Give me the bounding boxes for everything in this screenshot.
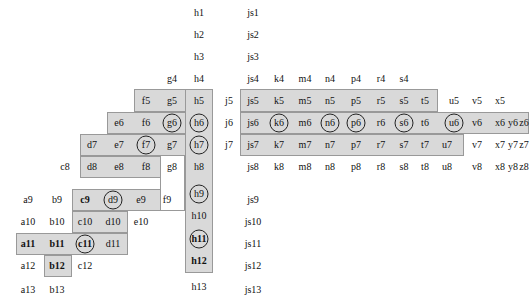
cell-label-n5: n5: [325, 96, 335, 106]
cell-label-u6: u6: [449, 118, 459, 128]
cell-label-a13: a13: [21, 285, 35, 295]
cell-label-e7: e7: [114, 140, 123, 150]
cell-label-h10: h10: [192, 211, 207, 221]
cell-label-js12: js12: [245, 261, 262, 271]
cell-label-r6: r6: [377, 118, 385, 128]
cell-label-z6: z6: [519, 118, 528, 128]
cell-label-p7: p7: [351, 140, 361, 150]
cell-label-e9: e9: [136, 195, 145, 205]
cell-label-a11: a11: [21, 239, 35, 249]
cell-label-u7: u7: [442, 140, 452, 150]
cell-label-js6: js6: [247, 118, 259, 128]
cell-label-js5: js5: [247, 96, 259, 106]
cell-label-e6: e6: [114, 118, 123, 128]
cell-label-u8: u8: [442, 162, 452, 172]
cell-label-s4: s4: [400, 74, 409, 84]
cell-label-c8: c8: [60, 162, 69, 172]
cell-label-n8: n8: [325, 162, 335, 172]
cell-label-k7: k7: [274, 140, 284, 150]
cell-label-g4: g4: [167, 74, 177, 84]
cell-label-d8: d8: [87, 162, 97, 172]
cell-label-b9: b9: [52, 195, 62, 205]
cell-label-x6: x6: [495, 118, 505, 128]
cell-label-h1: h1: [194, 8, 204, 18]
cell-label-k6: k6: [274, 118, 284, 128]
cell-label-b10: b10: [50, 217, 65, 227]
cell-label-h3: h3: [194, 52, 204, 62]
cell-label-g8: g8: [167, 162, 177, 172]
cell-label-j7: j7: [225, 140, 233, 150]
cell-label-h4: h4: [194, 74, 204, 84]
cell-label-g6: g6: [167, 118, 177, 128]
cell-label-x7: x7: [495, 140, 505, 150]
cell-label-s8: s8: [400, 162, 409, 172]
cell-label-d10: d10: [106, 217, 121, 227]
cell-label-y6: y6: [508, 118, 518, 128]
cell-label-js9: js9: [247, 195, 259, 205]
cell-label-p5: p5: [351, 96, 361, 106]
cell-label-k8: k8: [274, 162, 284, 172]
cell-label-b13: b13: [50, 285, 65, 295]
cell-label-t6: t6: [421, 118, 429, 128]
cell-label-s6: s6: [400, 118, 409, 128]
cell-label-f5: f5: [142, 96, 150, 106]
cell-label-k4: k4: [274, 74, 284, 84]
cell-label-m7: m7: [299, 140, 312, 150]
cell-label-v6: v6: [472, 118, 482, 128]
cell-label-s7: s7: [400, 140, 409, 150]
cell-label-b12: b12: [49, 261, 65, 271]
cell-label-p8: p8: [351, 162, 361, 172]
cell-label-js10: js10: [245, 217, 262, 227]
cell-label-s5: s5: [400, 96, 409, 106]
cell-label-js4: js4: [247, 74, 259, 84]
cell-label-v8: v8: [472, 162, 482, 172]
cell-label-a9: a9: [23, 195, 32, 205]
cell-label-h6: h6: [194, 118, 204, 128]
cell-label-j5: j5: [225, 96, 233, 106]
cell-label-x5: x5: [495, 96, 505, 106]
cell-label-h9: h9: [194, 189, 204, 199]
cell-label-y7: y7: [508, 140, 518, 150]
cell-label-js1: js1: [247, 8, 259, 18]
cell-label-p6: p6: [351, 118, 361, 128]
cell-label-v5: v5: [472, 96, 482, 106]
cell-label-t7: t7: [421, 140, 429, 150]
cell-label-p4: p4: [351, 74, 361, 84]
cell-label-h13: h13: [192, 282, 207, 292]
cell-label-h11: h11: [191, 234, 206, 244]
cell-label-js3: js3: [247, 52, 259, 62]
cell-label-d7: d7: [87, 140, 97, 150]
cell-label-x8: x8: [495, 162, 505, 172]
cell-label-f7: f7: [142, 140, 150, 150]
cell-label-c12: c12: [78, 261, 92, 271]
cell-label-n6: n6: [325, 118, 335, 128]
cell-label-z8: z8: [519, 162, 528, 172]
cell-label-k5: k5: [274, 96, 284, 106]
cell-label-m6: m6: [299, 118, 312, 128]
cell-label-g7: g7: [167, 140, 177, 150]
cell-label-h5: h5: [194, 96, 204, 106]
figure-canvas: h1js1h2js2h3js3g4h4js4k4m4n4p4r4s4f5g5h5…: [0, 0, 530, 302]
cell-label-u5: u5: [449, 96, 459, 106]
cell-label-js7: js7: [247, 140, 259, 150]
cell-label-a10: a10: [21, 217, 35, 227]
cell-label-r5: r5: [377, 96, 385, 106]
cell-label-d11: d11: [106, 239, 121, 249]
cell-label-h2: h2: [194, 30, 204, 40]
cell-label-f8: f8: [142, 162, 150, 172]
cell-label-c10: c10: [78, 217, 92, 227]
cell-label-r8: r8: [377, 162, 385, 172]
cell-label-f6: f6: [142, 118, 150, 128]
cell-label-js11: js11: [245, 239, 261, 249]
cell-label-t5: t5: [421, 96, 429, 106]
cell-label-t8: t8: [421, 162, 429, 172]
cell-label-j6: j6: [225, 118, 233, 128]
cell-label-js2: js2: [247, 30, 259, 40]
cell-label-m4: m4: [299, 74, 312, 84]
cell-label-h7: h7: [194, 140, 204, 150]
cell-label-d9: d9: [108, 195, 118, 205]
cell-label-h12: h12: [191, 256, 207, 266]
cell-label-g5: g5: [167, 96, 177, 106]
cell-label-m5: m5: [299, 96, 312, 106]
cell-label-e8: e8: [114, 162, 123, 172]
